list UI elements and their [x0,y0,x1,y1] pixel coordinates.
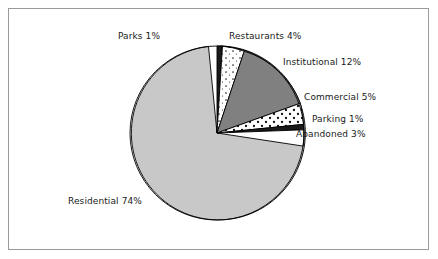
pie-label-residential: Residential 74% [68,196,142,207]
pie-slices-group [130,46,305,220]
pie-label-parking: Parking 1% [312,114,364,125]
pie-label-commercial: Commercial 5% [304,92,376,103]
pie-label-institutional: Institutional 12% [283,57,361,68]
pie-label-parks: Parks 1% [118,31,160,42]
pie-chart-canvas [0,0,438,259]
pie-label-abandoned: Abandoned 3% [296,129,366,140]
chart-figure: Parks 1% Restaurants 4% Institutional 12… [0,0,438,259]
pie-label-restaurants: Restaurants 4% [229,31,302,42]
